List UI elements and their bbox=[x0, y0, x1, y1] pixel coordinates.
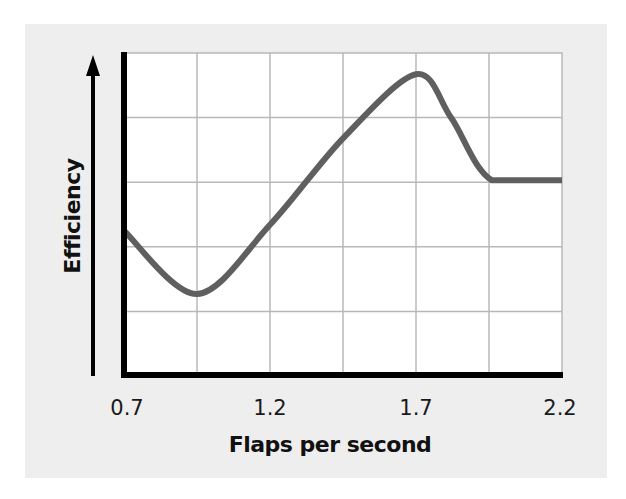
x-tick-label: 0.7 bbox=[110, 396, 143, 420]
x-tick-label: 1.7 bbox=[399, 396, 432, 420]
line-chart bbox=[0, 0, 626, 499]
x-tick-label: 2.2 bbox=[543, 396, 576, 420]
y-axis-title: Efficiency bbox=[60, 158, 85, 273]
x-tick-label: 1.2 bbox=[253, 396, 286, 420]
x-axis-title: Flaps per second bbox=[229, 432, 432, 457]
y-axis-arrow-icon bbox=[86, 55, 100, 376]
